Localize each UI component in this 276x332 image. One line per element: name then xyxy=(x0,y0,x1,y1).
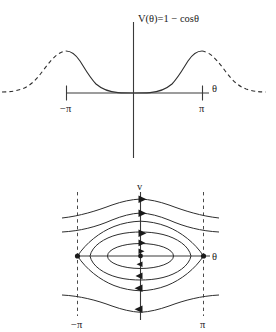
potential-tick-label-minus-pi: −π xyxy=(60,103,72,114)
figure-canvas: V(θ)=1 − cosθ θ −π π xyxy=(0,0,276,332)
phase-arrow-libration-inner-bottom xyxy=(137,262,143,267)
phase-fixed-point-saddle-right xyxy=(201,253,206,258)
potential-energy-plot: V(θ)=1 − cosθ θ −π π xyxy=(2,13,266,158)
phase-arrow-libration-middle-top xyxy=(139,240,146,247)
phase-tick-label-pi: π xyxy=(200,319,206,330)
phase-arrow-libration-middle-bottom xyxy=(136,273,143,280)
phase-arrow-rotation-upper-inner xyxy=(139,210,147,218)
pendulum-figure: V(θ)=1 − cosθ θ −π π xyxy=(0,0,276,332)
phase-v-axis-label: v xyxy=(137,181,143,192)
phase-theta-axis-label: θ xyxy=(212,251,217,262)
potential-title-label: V(θ)=1 − cosθ xyxy=(138,13,199,25)
potential-curve-dashed-left xyxy=(2,51,66,92)
potential-tick-label-pi: π xyxy=(199,103,205,114)
potential-theta-axis-label: θ xyxy=(212,83,217,94)
phase-fixed-point-center xyxy=(138,254,143,259)
phase-arrow-libration-inner-top xyxy=(139,249,145,254)
phase-arrow-separatrix-upper xyxy=(139,230,147,238)
phase-fixed-point-saddle-left xyxy=(75,253,80,258)
phase-portrait-plot: v θ −π π xyxy=(62,181,219,330)
phase-tick-label-minus-pi: −π xyxy=(71,319,83,330)
phase-arrow-rotation-upper-outer xyxy=(139,196,147,204)
